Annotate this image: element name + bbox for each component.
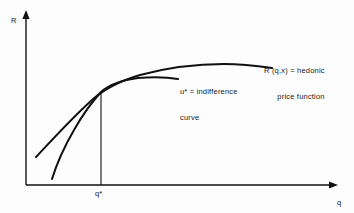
- hedonic-annotation-line-2: price function: [264, 93, 325, 102]
- x-axis-arrow-icon: [329, 181, 338, 188]
- hedonic-price-figure: R q q* R (q,x) = hedonic price function …: [0, 0, 354, 213]
- indifference-curve-annotation: u* = indifference curve: [180, 71, 238, 139]
- indifference-curve: [52, 77, 178, 179]
- y-axis: [22, 10, 29, 185]
- hedonic-price-function-annotation: R (q,x) = hedonic price function: [264, 50, 325, 118]
- y-axis-label: R: [11, 17, 17, 26]
- y-axis-arrow-icon: [22, 10, 29, 19]
- x-axis-tick-label-qstar: q*: [95, 190, 103, 199]
- indifference-annotation-line-1: u* = indifference: [180, 88, 238, 97]
- x-axis-label: q: [337, 199, 341, 208]
- indifference-annotation-line-2: curve: [180, 114, 238, 123]
- x-axis: [26, 181, 338, 188]
- hedonic-annotation-line-1: R (q,x) = hedonic: [264, 67, 325, 76]
